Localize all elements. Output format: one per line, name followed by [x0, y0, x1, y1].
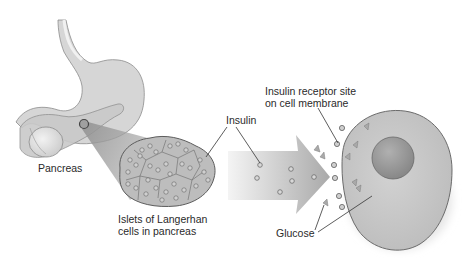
- islets-of-langerhans: [120, 136, 215, 206]
- label-islets-line1: Islets of Langerhan: [118, 213, 207, 225]
- label-insulin: Insulin: [226, 114, 256, 126]
- insulin-diagram: [0, 0, 462, 258]
- label-receptor-line2: on cell membrane: [265, 97, 348, 109]
- target-cell: [342, 110, 452, 250]
- islet-highlight: [80, 120, 89, 129]
- label-glucose: Glucose: [276, 227, 315, 239]
- label-pancreas: Pancreas: [38, 162, 82, 174]
- label-islets-line2: cells in pancreas: [118, 225, 196, 237]
- nucleus: [372, 137, 414, 179]
- label-receptor-line1: Insulin receptor site: [265, 85, 356, 97]
